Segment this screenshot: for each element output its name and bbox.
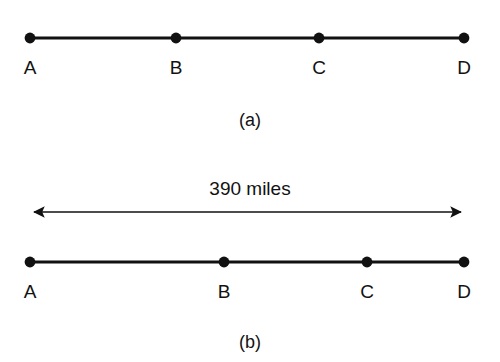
point-dot-b-D <box>459 257 470 268</box>
diagram-panel-a: A B C D (a) <box>0 0 500 150</box>
point-label-a-B: B <box>156 58 196 78</box>
figure-container: A B C D (a) 390 miles <box>0 0 500 362</box>
point-label-a-C: C <box>299 58 339 78</box>
panel-caption-a: (a) <box>0 110 500 130</box>
panel-caption-b: (b) <box>0 332 500 352</box>
point-label-b-A: A <box>10 282 50 302</box>
point-label-a-A: A <box>10 58 50 78</box>
point-label-b-C: C <box>347 282 387 302</box>
point-dot-a-B <box>171 33 182 44</box>
point-dot-b-C <box>362 257 373 268</box>
diagram-panel-b: 390 miles A B C D (b) <box>0 160 500 362</box>
point-dot-b-A <box>25 257 36 268</box>
point-dot-a-A <box>25 33 36 44</box>
point-label-a-D: D <box>444 58 484 78</box>
point-label-b-D: D <box>444 282 484 302</box>
point-dot-b-B <box>219 257 230 268</box>
point-dot-a-D <box>459 33 470 44</box>
point-dot-a-C <box>314 33 325 44</box>
point-label-b-B: B <box>204 282 244 302</box>
